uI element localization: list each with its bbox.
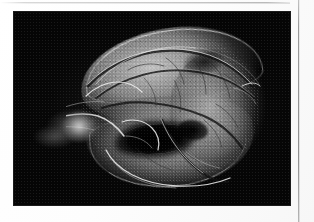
- vascular-pedicle-core: [56, 108, 98, 148]
- page-top-rule-shadow: [0, 3, 290, 4]
- column-divider-rule-shadow: [299, 0, 300, 222]
- document-page: [0, 0, 314, 222]
- radiograph-figure: [14, 12, 290, 205]
- organ-specimen: [66, 24, 266, 192]
